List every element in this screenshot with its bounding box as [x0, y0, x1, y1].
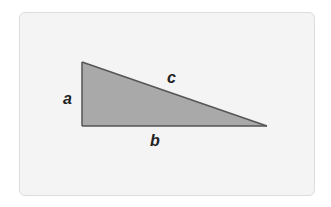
diagram-stage: a b c [0, 0, 331, 207]
label-side-c: c [167, 70, 176, 86]
label-side-b: b [150, 133, 160, 149]
triangle-figure [0, 0, 331, 207]
label-side-a: a [63, 91, 72, 107]
